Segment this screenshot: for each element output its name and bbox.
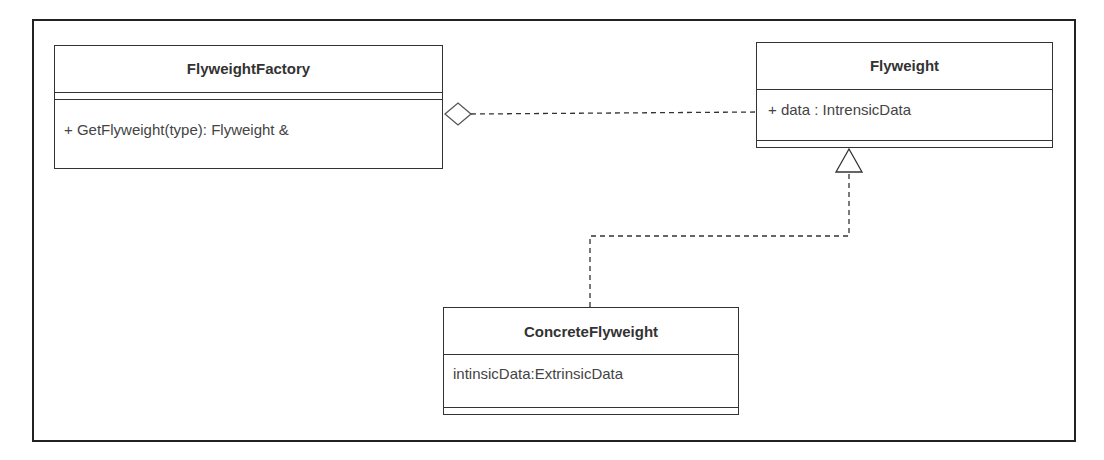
realization-link [590,149,862,307]
relationship-lines [0,0,1104,460]
aggregation-link [445,103,756,125]
hollow-triangle-icon [836,149,862,172]
hollow-diamond-icon [445,103,471,125]
